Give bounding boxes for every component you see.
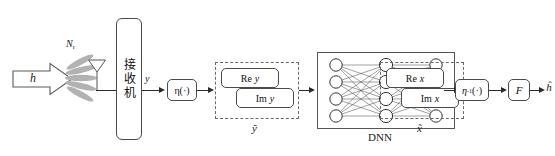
re-x-box: Re x [386, 68, 444, 88]
eta-inverse-arg: (·) [472, 85, 482, 96]
re-y-box: Re y [221, 68, 279, 88]
re-x-var: x [420, 73, 424, 84]
re-y-prefix: Re [241, 73, 252, 84]
antenna-to-receiver-line [96, 90, 118, 91]
im-y-box: Im y [236, 88, 294, 108]
eta-inverse-block: η-1(·) [455, 79, 489, 101]
split-to-dnn-arrowhead [309, 87, 315, 93]
antenna-count-n: N [66, 38, 73, 49]
receiver-output-line [142, 90, 160, 91]
split-y-label: ỹ [252, 123, 257, 134]
receiver-block: 接收机 [116, 18, 142, 140]
im-y-var: y [270, 93, 274, 104]
eta-to-split-arrowhead [208, 87, 214, 93]
re-x-prefix: Re [406, 73, 417, 84]
receiver-output-arrowhead [159, 87, 165, 93]
diagram-canvas: h Nr 接收机 y η(·) Re y Im y ỹ [0, 0, 555, 156]
split-x-label: x̃ [417, 123, 422, 134]
etainv-to-F-arrowhead [501, 87, 507, 93]
transform-F-block: F [508, 79, 530, 101]
output-estimate-label: ĥ [546, 82, 552, 93]
transform-F-label: F [516, 84, 523, 96]
im-x-prefix: Im [421, 93, 432, 104]
antenna-count-sub: r [73, 43, 75, 50]
F-to-output-arrowhead [539, 87, 545, 93]
receive-antenna-icon [84, 52, 110, 94]
signal-y-label: y [145, 74, 149, 84]
eta-forward-block: η(·) [167, 79, 197, 101]
im-y-prefix: Im [256, 93, 267, 104]
re-y-var: y [255, 73, 259, 84]
antenna-count-label: Nr [66, 39, 75, 50]
im-x-var: x [435, 93, 439, 104]
channel-label: h [30, 72, 36, 84]
dnn-label: DNN [368, 132, 392, 143]
im-x-box: Im x [401, 88, 459, 108]
